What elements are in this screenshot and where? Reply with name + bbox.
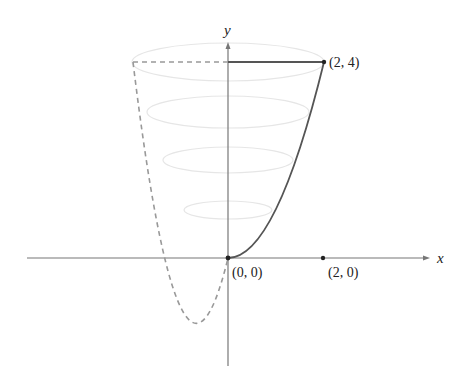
point-x-axis-mark <box>321 256 325 260</box>
label-origin: (0, 0) <box>232 265 263 281</box>
x-axis-label: x <box>436 250 444 266</box>
point-origin <box>226 256 231 261</box>
parabola-curve <box>228 62 324 258</box>
x-axis-arrow-icon <box>423 256 430 261</box>
label-x-axis-mark: (2, 0) <box>328 265 359 281</box>
diagram-svg: x y (0, 0) (2, 4) (2, 0) <box>0 0 465 390</box>
mirror-parabola-dashed <box>133 62 228 323</box>
diagram-canvas: x y (0, 0) (2, 4) (2, 0) <box>0 0 465 390</box>
y-axis-label: y <box>222 22 231 38</box>
label-top-right: (2, 4) <box>329 55 360 71</box>
y-axis: y <box>222 22 231 366</box>
point-top-right <box>322 60 326 64</box>
x-axis: x <box>27 250 444 266</box>
